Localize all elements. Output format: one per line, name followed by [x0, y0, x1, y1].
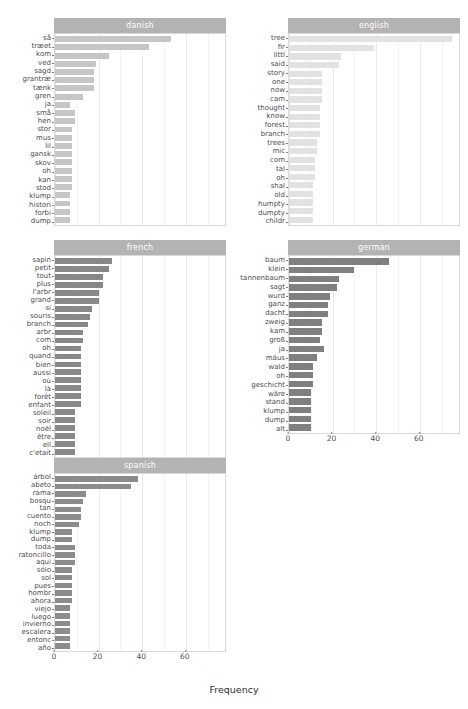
bar-row: [289, 406, 459, 415]
facet-strip-label: english: [288, 18, 460, 33]
bar: [289, 122, 320, 128]
bar: [289, 182, 313, 188]
bar-row: [289, 164, 459, 173]
bar-row: [55, 216, 225, 224]
bar-row: [55, 101, 225, 109]
bar-row: [289, 380, 459, 389]
bar-row: [289, 78, 459, 87]
bar-row: [55, 475, 225, 483]
bar: [55, 184, 72, 190]
bar-row: [55, 150, 225, 158]
y-axis-tick-label: noch: [8, 520, 54, 528]
y-axis-tick-label: story: [242, 69, 288, 78]
bar: [55, 322, 88, 328]
bar: [55, 94, 83, 100]
bar: [55, 102, 70, 108]
bar: [289, 45, 374, 51]
bar: [289, 328, 322, 334]
y-axis-tick-label: petit: [8, 264, 54, 272]
panel-english: englishtreefirlittlsaidstoryonenowcamtho…: [242, 18, 460, 226]
bar-row: [289, 415, 459, 424]
bar-row: [289, 44, 459, 53]
bar-row: [289, 336, 459, 345]
bar: [289, 311, 328, 317]
bar-row: [55, 183, 225, 191]
bar: [289, 372, 313, 378]
bar-row: [55, 521, 225, 529]
bar: [55, 36, 171, 42]
bar: [55, 298, 99, 304]
bar-row: [55, 604, 225, 612]
y-axis-tick-label: now: [242, 86, 288, 95]
bar: [55, 590, 72, 595]
bar-row: [55, 400, 225, 408]
bar-row: [55, 589, 225, 597]
x-axis-tick-label: 40: [136, 652, 146, 661]
y-axis-tick-label: old: [242, 191, 288, 200]
bar: [289, 165, 315, 171]
bar: [289, 157, 315, 163]
bar: [289, 199, 313, 205]
y-axis-tick-label: dump: [8, 218, 54, 226]
bar-row: [289, 87, 459, 96]
y-axis-labels: såtræetkomvedsagdgrantrætænkgrenjasmåhen…: [8, 33, 54, 226]
bar-row: [289, 104, 459, 113]
bar-row: [55, 93, 225, 101]
bar-row: [55, 329, 225, 337]
bar: [55, 598, 72, 603]
bar: [289, 346, 324, 352]
bar: [55, 69, 94, 75]
plot-area: [54, 33, 226, 226]
bar: [289, 337, 320, 343]
bar: [55, 643, 70, 648]
y-axis-tick-label: fir: [242, 43, 288, 52]
bar-row: [55, 199, 225, 207]
bar-row: [55, 281, 225, 289]
bar: [55, 354, 81, 360]
bar: [55, 636, 70, 641]
bar: [55, 306, 92, 312]
y-axis-tick-label: trees: [242, 139, 288, 148]
facet-strip-label: spanish: [54, 458, 226, 473]
bar: [55, 522, 79, 527]
y-axis-tick-label: humpty: [242, 200, 288, 209]
y-axis-tick-label: branch: [242, 130, 288, 139]
bar: [55, 567, 72, 572]
bar-row: [289, 130, 459, 139]
bar: [289, 293, 330, 299]
bar-row: [289, 215, 459, 224]
y-axis-tick-label: mäus: [242, 354, 288, 363]
bar: [55, 441, 75, 447]
y-axis-tick-label: oh: [242, 174, 288, 183]
y-axis-tick-label: ja: [242, 345, 288, 354]
bar-row: [289, 173, 459, 182]
y-axis-tick-label: one: [242, 78, 288, 87]
bar-row: [55, 505, 225, 513]
y-axis-tick-label: bien: [8, 361, 54, 369]
bar: [289, 131, 320, 137]
bar-row: [55, 490, 225, 498]
facet-strip-label: german: [288, 240, 460, 255]
x-axis: 0204060: [288, 434, 460, 448]
bar: [55, 77, 94, 83]
bar: [289, 319, 322, 325]
bar-row: [289, 301, 459, 310]
plot-area: [54, 255, 226, 458]
bar: [55, 61, 96, 67]
bar-row: [55, 297, 225, 305]
bar: [289, 174, 315, 180]
bar: [289, 191, 313, 197]
y-axis-tick-label: sagt: [242, 283, 288, 292]
bar-row: [55, 627, 225, 635]
panel-french: frenchsapinpetittoutplusl'arbrgrandsisou…: [8, 240, 226, 458]
bar-row: [55, 408, 225, 416]
bar-row: [289, 95, 459, 104]
y-axis-tick-label: forest: [242, 121, 288, 130]
y-axis-tick-label: know: [242, 113, 288, 122]
y-axis-tick-label: klump: [8, 193, 54, 201]
bar-row: [289, 112, 459, 121]
y-axis-tick-label: ganz: [242, 301, 288, 310]
bar: [55, 514, 81, 519]
bar: [55, 53, 109, 59]
bar-row: [289, 292, 459, 301]
